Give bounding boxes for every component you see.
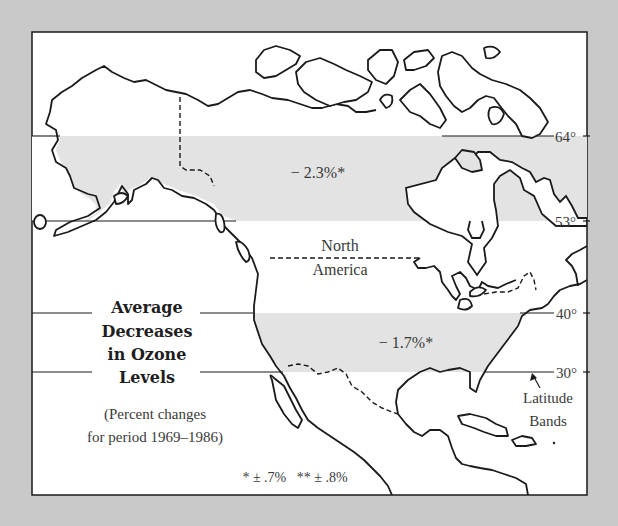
region-label-north: North — [321, 237, 358, 254]
title-line-2: Decreases — [102, 322, 193, 341]
title-line-4: Levels — [119, 368, 175, 387]
band-value-30-40: − 1.7%* — [379, 334, 433, 351]
lat-label-53: 53° — [555, 214, 576, 230]
region-label-america: America — [312, 261, 367, 278]
uncertainty-footnote: * ± .7% ** ± .8% — [242, 470, 348, 485]
ozone-map-figure: 64° 53° 40° 30° − 2.3%* − 1.7%* North Am… — [0, 0, 618, 526]
lat-label-64: 64° — [555, 129, 576, 145]
title-line-3: in Ozone — [108, 345, 187, 364]
subtitle-line-1: (Percent changes — [104, 406, 206, 423]
map-canvas: 64° 53° 40° 30° − 2.3%* − 1.7%* North Am… — [0, 0, 618, 526]
band-value-53-64: − 2.3%* — [291, 164, 345, 181]
legend-label-latitude: Latitude — [523, 390, 573, 406]
lat-label-40: 40° — [556, 306, 577, 322]
title-line-1: Average — [110, 298, 182, 317]
lat-label-30: 30° — [556, 365, 577, 381]
legend-label-bands: Bands — [529, 413, 567, 429]
subtitle-line-2: for period 1969–1986) — [87, 429, 223, 446]
